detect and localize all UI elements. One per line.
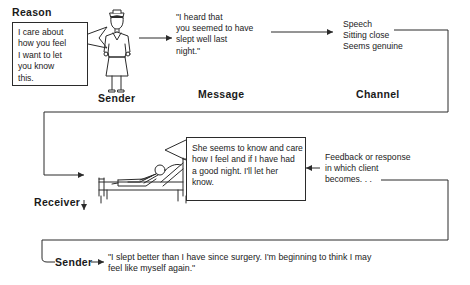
nurse-standing-figure	[104, 10, 130, 92]
communication-process-diagram: Reason I care about how you feel I want …	[0, 0, 470, 285]
reason-label: Reason	[12, 6, 52, 18]
receiver-box-text: She seems to know and care how I feel an…	[187, 138, 305, 189]
reason-box-tail	[88, 27, 107, 48]
message-text: "I heard that you seemed to have slept w…	[176, 12, 276, 57]
receiver-speech-box: She seems to know and care how I feel an…	[186, 137, 306, 201]
patient-in-bed-figure	[99, 158, 188, 203]
sender-bottom-quote: "I slept better than I have since surger…	[108, 252, 458, 275]
reason-box-text: I care about how you feel I want to let …	[13, 23, 87, 84]
path-feedback-sender-elbow	[42, 258, 55, 262]
sender-top-label: Sender	[98, 92, 135, 104]
receiver-box-tail	[165, 140, 186, 160]
message-label: Message	[198, 88, 244, 100]
channel-label: Channel	[356, 88, 400, 100]
reason-speech-box: I care about how you feel I want to let …	[12, 22, 88, 86]
receiver-label: Receiver	[34, 196, 80, 208]
sender-bottom-label: Sender	[55, 256, 92, 268]
feedback-text: Feedback or response in which client bec…	[325, 152, 445, 186]
channel-text: Speech Sitting close Seems genuine	[343, 19, 443, 53]
